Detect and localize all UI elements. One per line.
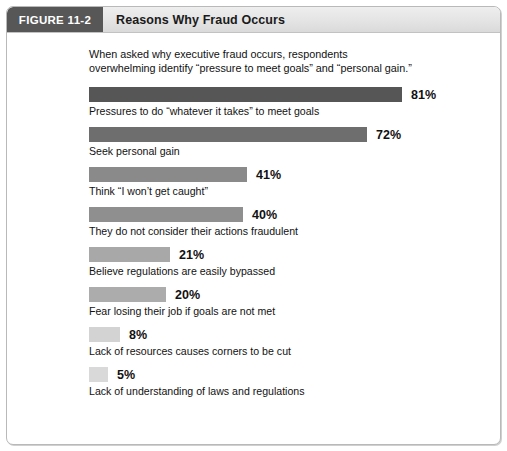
chart-subtitle: When asked why executive fraud occurs, r…: [89, 47, 484, 75]
bar-line: 81%: [89, 87, 484, 102]
figure-number-tag: FIGURE 11-2: [7, 7, 103, 32]
bar-category-label: Lack of understanding of laws and regula…: [89, 385, 484, 397]
bar-value-label: 81%: [411, 88, 436, 102]
bar-row: 72%Seek personal gain: [89, 127, 484, 157]
bar: [89, 207, 243, 222]
bar: [89, 327, 120, 342]
bar-category-label: Pressures to do “whatever it takes” to m…: [89, 105, 484, 117]
figure-frame: FIGURE 11-2 Reasons Why Fraud Occurs Whe…: [6, 6, 501, 445]
bar-value-label: 72%: [376, 128, 401, 142]
bar-category-label: Lack of resources causes corners to be c…: [89, 345, 484, 357]
bar-value-label: 5%: [117, 368, 135, 382]
bar-value-label: 41%: [256, 168, 281, 182]
figure-title: Reasons Why Fraud Occurs: [103, 7, 285, 32]
bar-line: 21%: [89, 247, 484, 262]
bar-category-label: They do not consider their actions fraud…: [89, 225, 484, 237]
bar-category-label: Seek personal gain: [89, 145, 484, 157]
bar-category-label: Fear losing their job if goals are not m…: [89, 305, 484, 317]
bar-line: 72%: [89, 127, 484, 142]
bar: [89, 287, 166, 302]
bar-line: 5%: [89, 367, 484, 382]
bar-row: 8%Lack of resources causes corners to be…: [89, 327, 484, 357]
bar-row: 20%Fear losing their job if goals are no…: [89, 287, 484, 317]
bar: [89, 87, 402, 102]
bar-row: 41%Think “I won’t get caught”: [89, 167, 484, 197]
bar-line: 40%: [89, 207, 484, 222]
bar: [89, 167, 247, 182]
chart-body: When asked why executive fraud occurs, r…: [7, 33, 500, 397]
bar: [89, 127, 367, 142]
bar-category-label: Believe regulations are easily bypassed: [89, 265, 484, 277]
bar-chart: 81%Pressures to do “whatever it takes” t…: [89, 87, 484, 397]
figure-header: FIGURE 11-2 Reasons Why Fraud Occurs: [7, 7, 500, 33]
bar-value-label: 20%: [175, 288, 200, 302]
bar-value-label: 8%: [129, 328, 147, 342]
bar-value-label: 21%: [179, 248, 204, 262]
bar-row: 5%Lack of understanding of laws and regu…: [89, 367, 484, 397]
bar-row: 21%Believe regulations are easily bypass…: [89, 247, 484, 277]
bar: [89, 367, 108, 382]
bar-line: 20%: [89, 287, 484, 302]
bar-line: 8%: [89, 327, 484, 342]
bar-row: 40%They do not consider their actions fr…: [89, 207, 484, 237]
bar-row: 81%Pressures to do “whatever it takes” t…: [89, 87, 484, 117]
bar-line: 41%: [89, 167, 484, 182]
bar-value-label: 40%: [252, 208, 277, 222]
bar-category-label: Think “I won’t get caught”: [89, 185, 484, 197]
bar: [89, 247, 170, 262]
